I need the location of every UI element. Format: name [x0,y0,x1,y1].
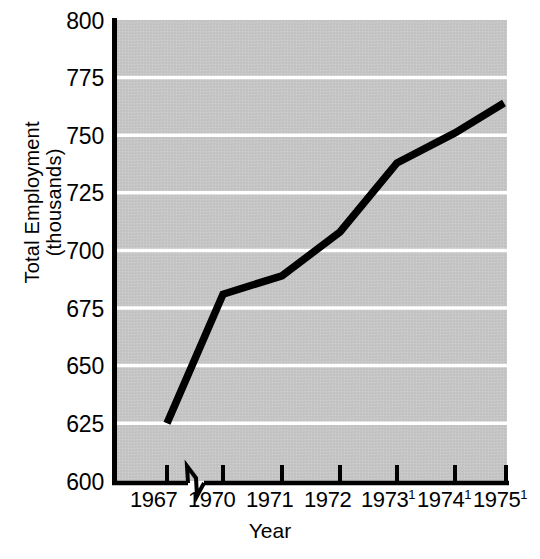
x-tick-label-1971-text: 1971 [246,487,293,512]
x-tick-label-1967: 1967 [130,487,177,513]
x-tick-label-1971: 1971 [246,487,293,513]
x-tick-label-1970-text: 1970 [188,487,235,512]
x-tick-label-1975-text: 1975 [473,487,520,512]
x-tick-footnote-1975: 1 [520,487,527,502]
plot-svg [0,0,540,559]
x-tick-label-1972-text: 1972 [304,487,351,512]
x-tick-footnote-1974: 1 [464,487,471,502]
x-axis-title: Year [0,519,540,543]
chart-container: Total Employment (thousands) 800 775 750… [0,0,540,559]
x-tick-label-1970: 1970 [188,487,235,513]
x-tick-label-1967-text: 1967 [130,487,177,512]
x-tick-label-1974: 19741 [417,487,471,513]
x-tick-label-1973: 19731 [361,487,415,513]
x-tick-label-1974-text: 1974 [417,487,464,512]
x-tick-label-1972: 1972 [304,487,351,513]
x-tick-label-1973-text: 1973 [361,487,408,512]
x-tick-label-1975: 19751 [473,487,527,513]
x-tick-footnote-1973: 1 [408,487,415,502]
